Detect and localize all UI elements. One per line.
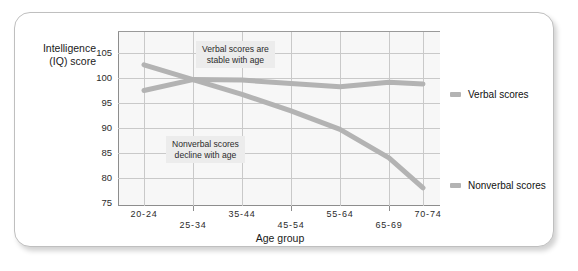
x-tick-label-35-44: 35-44 (228, 209, 255, 219)
x-axis-title: Age group (180, 232, 380, 244)
callout-verbal-line1: Verbal scores are (202, 44, 269, 55)
callout-verbal-line2: stable with age (202, 55, 269, 66)
callout-nonverbal-line2: decline with age (172, 150, 239, 161)
legend-swatch-verbal-icon (450, 92, 461, 97)
x-tick-mark-45-54 (291, 206, 292, 211)
legend-swatch-nonverbal-icon (450, 183, 461, 188)
x-tick-label-70-74: 70-74 (414, 209, 441, 219)
y-tick-label-80: 80 (72, 172, 112, 183)
x-tick-label-20-24: 20-24 (130, 209, 157, 219)
legend-item-nonverbal[interactable]: Nonverbal scores (450, 180, 546, 191)
x-tick-mark-25-34 (193, 206, 194, 211)
legend-label-nonverbal: Nonverbal scores (468, 180, 546, 191)
x-tick-mark-65-69 (389, 206, 390, 211)
y-tick-label-75: 75 (72, 197, 112, 208)
callout-verbal: Verbal scores are stable with age (196, 41, 275, 68)
y-tick-label-90: 90 (72, 122, 112, 133)
y-tick-label-85: 85 (72, 147, 112, 158)
line-verbal-scores (144, 80, 423, 91)
callout-nonverbal: Nonverbal scores decline with age (166, 136, 245, 163)
plot-area: Verbal scores are stable with age Nonver… (118, 31, 440, 206)
x-tick-label-55-64: 55-64 (326, 209, 353, 219)
x-tick-label-25-34: 25-34 (179, 220, 206, 230)
y-tick-label-95: 95 (72, 97, 112, 108)
x-tick-label-65-69: 65-69 (375, 220, 402, 230)
chart-figure: Intelligence (IQ) score 105 100 95 90 85… (0, 0, 578, 271)
y-tick-label-100: 100 (72, 72, 112, 83)
y-tick-label-105: 105 (72, 47, 112, 58)
legend-label-verbal: Verbal scores (468, 89, 529, 100)
callout-nonverbal-line1: Nonverbal scores (172, 139, 239, 150)
x-tick-label-45-54: 45-54 (277, 220, 304, 230)
legend-item-verbal[interactable]: Verbal scores (450, 89, 529, 100)
series-lines (118, 32, 440, 207)
